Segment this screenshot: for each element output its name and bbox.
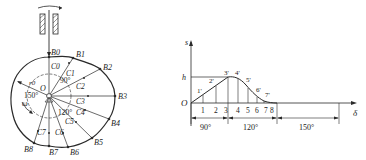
angle-120-label: 120° [58,108,72,117]
c-labels: C0 C1 C2 C3 C4 C5 C6 C7 [37,62,85,137]
division-label-6: 6 [255,106,259,115]
division-label-2: 2 [214,106,218,115]
segment-labels: 90° 120° 150° [200,123,314,132]
curve-label-1: 1' [197,87,202,95]
label-b7: B7 [49,148,59,157]
curve-label-3: 3' [224,69,229,77]
segment-label-rise: 90° [200,123,211,132]
label-c6: C6 [55,128,64,137]
curve-point-labels: 1' 2' 3' 4' 5' 6' 7' [197,69,270,99]
label-b1: B1 [76,50,85,59]
label-c0: C0 [51,62,60,71]
origin-label: O [181,98,188,108]
label-c4: C4 [76,108,85,117]
label-b0: B0 [51,48,60,57]
label-c2: C2 [76,82,85,91]
center-label: O [40,84,46,93]
division-label-4: 4 [236,106,240,115]
cam-diagram: B0 B1 B2 B3 B4 B5 B6 B7 B8 C0 C1 C2 C3 C… [10,6,127,157]
label-b2: B2 [103,63,112,72]
label-c5: C5 [65,117,74,126]
curve-label-5: 5' [246,76,251,84]
s-axis-label: s [185,38,188,47]
division-label-7: 7 [264,106,268,115]
label-c7: C7 [37,128,46,137]
label-b3: B3 [118,92,127,101]
label-c3: C3 [76,97,85,106]
label-b4: B4 [111,119,120,128]
base-radius-label: r0 [29,79,36,87]
angle-90-label: 90° [60,76,71,85]
division-label-5: 5 [246,106,250,115]
label-b8: B8 [24,145,33,154]
segment-label-dwell: 150° [299,123,314,132]
label-b6: B6 [70,148,79,157]
h-label: h [182,73,186,82]
curve-label-7: 7' [265,91,270,99]
segment-label-return: 120° [243,123,258,132]
omega-label: ω [22,99,28,108]
label-b5: B5 [94,138,103,147]
division-label-1: 1 [201,106,205,115]
displacement-curve [191,77,277,103]
delta-axis-arrow-icon [351,101,357,105]
division-label-3: 3 [224,106,228,115]
curve-label-4: 4' [235,69,240,77]
curve-label-6: 6' [256,86,261,94]
division-label-8: 8 [270,106,274,115]
curve-label-2: 2' [209,77,214,85]
displacement-diagram: s δ O h 1' 2' 3' 4' 5' 6' 7' 1 2 3 4 5 6… [181,38,358,132]
cam-design-figure: B0 B1 B2 B3 B4 B5 B6 B7 B8 C0 C1 C2 C3 C… [0,0,366,160]
s-axis-arrow-icon [189,40,193,46]
division-labels: 1 2 3 4 5 6 7 8 [201,106,274,115]
delta-axis-label: δ [353,108,358,118]
